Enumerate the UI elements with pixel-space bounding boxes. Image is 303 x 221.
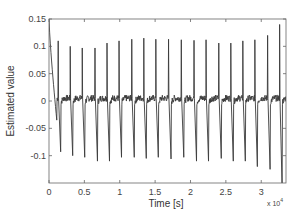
x-tick-label: 2: [188, 187, 193, 197]
y-tick-label: -0.1: [30, 151, 46, 161]
x-tick-label: 0.5: [78, 187, 91, 197]
y-tick-label: 0.1: [33, 41, 46, 51]
x-axis-multiplier: x 104: [267, 197, 283, 207]
line-chart: 00.511.522.53 -0.1-0.0500.050.10.15 Time…: [0, 0, 303, 221]
x-axis-label: Time [s]: [148, 198, 183, 209]
x-tick-label: 1.5: [149, 187, 162, 197]
plot-area: [49, 19, 286, 183]
y-axis-label: Estimated value: [5, 65, 16, 137]
y-tick-label: 0.05: [28, 69, 46, 79]
y-tick-label: 0: [41, 96, 46, 106]
x-tick-label: 3: [259, 187, 264, 197]
y-tick-label: 0.15: [28, 14, 46, 24]
y-tick-label: -0.05: [25, 123, 46, 133]
x-tick-label: 2.5: [220, 187, 233, 197]
x-tick-label: 0: [46, 187, 51, 197]
x-tick-label: 1: [117, 187, 122, 197]
